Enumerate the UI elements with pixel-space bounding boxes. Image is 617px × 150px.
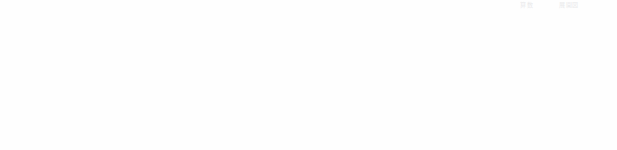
faint-header-left: 算数 (520, 2, 533, 8)
worksheet-canvas: 算数展開図 (0, 0, 617, 150)
faint-header-right: 展開図 (559, 2, 579, 8)
faint-page-header: 算数展開図 (520, 0, 617, 9)
